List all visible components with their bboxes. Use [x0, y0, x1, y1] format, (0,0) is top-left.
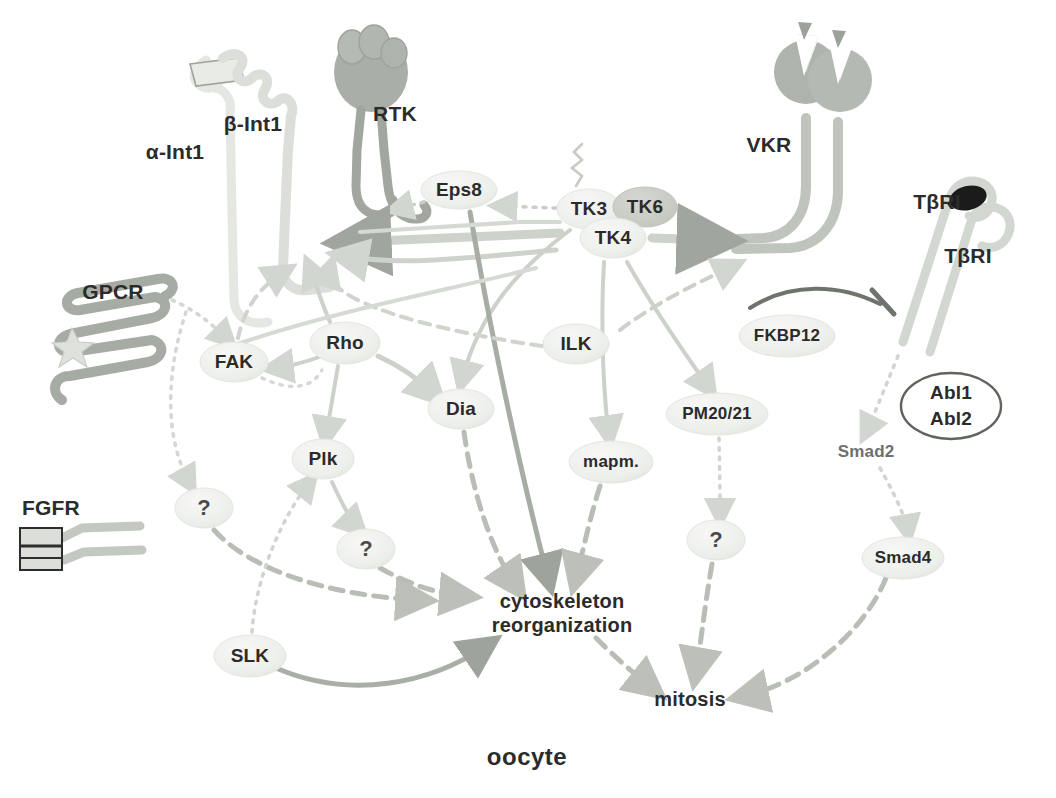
node-abl-shape	[901, 373, 1001, 439]
node-ilk-shape	[543, 324, 609, 364]
edge-tk-integrin-2	[344, 250, 556, 261]
edge-tk3-eps8	[500, 206, 556, 208]
node-pm2021-shape	[666, 393, 768, 435]
receptor-alpha-int1	[194, 60, 268, 323]
node-plk-shape	[292, 439, 354, 479]
receptor-vkr	[736, 22, 872, 249]
edge-gpcr-q1	[171, 312, 190, 484]
edge-tk4-vkr	[652, 238, 716, 240]
edge-cytoskeleton-mitosis	[596, 638, 652, 688]
diagram-canvas: α-Int1 β-Int1 RTK VKR TβRI TβRI GPCR FGF…	[0, 0, 1056, 798]
edge-slk-plk	[252, 482, 310, 632]
edge-rho-dia	[378, 356, 434, 394]
edge-layer	[171, 202, 908, 696]
pathway-svg	[0, 0, 1056, 798]
node-q2-shape	[337, 529, 395, 569]
node-fkbp12-shape	[739, 315, 835, 357]
node-eps8-shape	[421, 171, 497, 209]
node-dia-shape	[428, 389, 494, 429]
edge-tbri-smad2	[866, 356, 898, 432]
fgfr-striped-box	[20, 528, 62, 570]
node-slk-shape	[214, 635, 286, 677]
node-q3-shape	[687, 520, 745, 560]
edge-smad2-smad4	[880, 468, 908, 532]
edge-rho-plk	[326, 366, 338, 436]
edge-fak-rho-dotted	[262, 370, 322, 386]
edge-q3-mitosis	[696, 564, 712, 672]
node-q1-shape	[175, 488, 233, 528]
node-rho-shape	[310, 322, 380, 364]
receptor-beta-int1	[223, 54, 330, 290]
receptor-tbri	[903, 181, 1010, 352]
receptor-rtk	[334, 25, 427, 219]
edge-tk4-pm2021	[627, 262, 709, 388]
edge-fak-integrin	[238, 272, 284, 338]
edge-slk-cytoskeleton	[276, 646, 486, 685]
node-layer	[175, 171, 1001, 677]
edge-rho-integrin	[310, 268, 330, 322]
node-smad4-shape	[862, 537, 944, 579]
edge-fkbp12-tbri-inhibit	[750, 289, 880, 308]
edge-mapm-cytoskeleton	[576, 486, 600, 578]
edge-tk-integrin-1	[352, 233, 560, 242]
edge-rho-fak	[274, 356, 322, 368]
node-fak-shape	[200, 342, 268, 382]
edge-q2-cytoskeleton	[380, 568, 464, 596]
edge-pm2021-q3	[719, 438, 720, 516]
edge-plk-q2	[332, 482, 358, 528]
edge-smad4-mitosis	[744, 578, 886, 696]
node-mapm-shape	[569, 441, 653, 483]
receptor-fgfr	[20, 526, 142, 570]
edge-dia-cytoskeleton	[464, 432, 516, 586]
tk-antenna-icon	[572, 144, 582, 186]
node-tk4-shape	[580, 218, 646, 258]
